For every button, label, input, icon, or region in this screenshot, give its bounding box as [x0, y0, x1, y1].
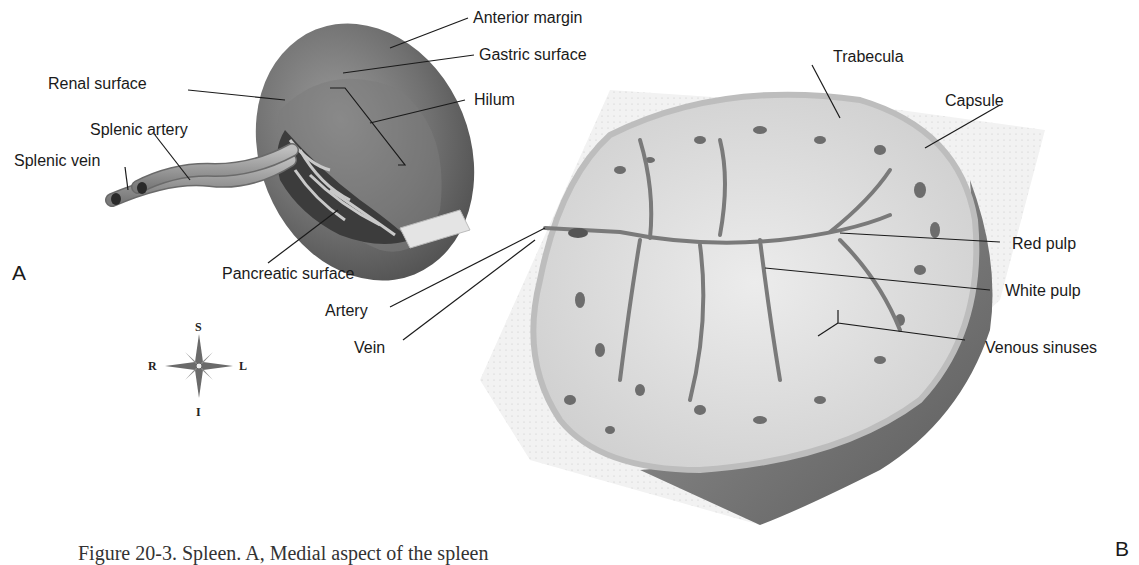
panel-letter-a: A	[12, 262, 26, 283]
label-gastric-surface: Gastric surface	[479, 47, 587, 63]
label-renal-surface: Renal surface	[48, 76, 147, 92]
splenic-vessels	[111, 150, 292, 205]
label-capsule: Capsule	[945, 93, 1004, 109]
label-red-pulp: Red pulp	[1012, 236, 1076, 252]
label-trabecula: Trabecula	[833, 49, 904, 65]
label-hilum: Hilum	[474, 92, 515, 108]
label-venous-sinuses: Venous sinuses	[985, 340, 1097, 356]
label-pancreatic-surface: Pancreatic surface	[222, 266, 355, 282]
figure-caption: Figure 20-3. Spleen. A, Medial aspect of…	[78, 542, 488, 565]
tissue-block-b	[480, 90, 1045, 525]
compass-superior: S	[195, 320, 202, 335]
label-artery: Artery	[325, 303, 368, 319]
label-vein: Vein	[354, 340, 385, 356]
compass-inferior: I	[196, 405, 201, 420]
label-splenic-vein: Splenic vein	[14, 153, 100, 169]
label-anterior-margin: Anterior margin	[473, 10, 582, 26]
label-white-pulp: White pulp	[1005, 283, 1081, 299]
compass-rose	[165, 334, 233, 398]
compass-right: R	[148, 359, 157, 374]
label-splenic-artery: Splenic artery	[90, 122, 188, 138]
compass-left: L	[239, 359, 247, 374]
panel-letter-b: B	[1115, 538, 1129, 559]
